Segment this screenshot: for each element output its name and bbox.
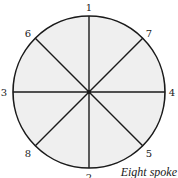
spoke-label-1: 1 [86,2,92,13]
diagram-caption: Eight spoke [120,165,178,178]
spoke-label-2: 2 [86,172,92,178]
eight-spoke-wheel-diagram: 1 2 3 4 5 6 7 8 Eight spoke [0,0,178,178]
spoke-label-8: 8 [25,148,31,159]
spoke-label-3: 3 [1,87,7,98]
spoke-label-5: 5 [146,148,152,159]
hub [87,90,91,94]
spoke-label-6: 6 [25,28,31,39]
spoke-label-7: 7 [146,28,152,39]
spoke-label-4: 4 [169,87,175,98]
